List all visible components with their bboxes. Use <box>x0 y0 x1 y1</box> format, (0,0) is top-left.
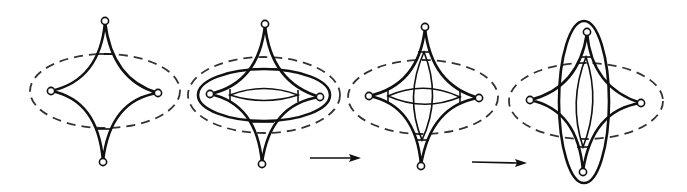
stage-4-figure <box>509 21 663 183</box>
top-node <box>583 28 590 35</box>
astroid-shape <box>369 28 479 165</box>
astroid-shape <box>530 33 641 171</box>
arrow-right-icon <box>472 159 527 167</box>
stage-3-figure <box>348 23 498 169</box>
vertical-lens <box>413 52 432 140</box>
transformation-diagram <box>0 0 687 192</box>
bottom-node <box>258 160 265 167</box>
astroid-shape <box>210 25 320 163</box>
stage-1-figure <box>30 17 180 165</box>
top-node <box>421 23 428 30</box>
left-node <box>526 96 533 103</box>
astroid-shape <box>51 22 158 161</box>
right-node <box>316 93 323 100</box>
left-node <box>47 87 54 94</box>
arrow-right-icon <box>310 154 361 162</box>
bottom-node <box>99 158 106 165</box>
right-node <box>154 89 161 96</box>
horizontal-lens <box>230 89 298 101</box>
right-node <box>637 99 644 106</box>
left-node <box>365 92 372 99</box>
top-node <box>261 20 268 27</box>
stage-2-figure <box>188 20 340 167</box>
left-node <box>206 90 213 97</box>
bottom-node <box>417 162 424 169</box>
bottom-node <box>579 168 586 175</box>
vertical-lens <box>576 57 593 147</box>
top-node <box>101 17 108 24</box>
right-node <box>475 94 482 101</box>
horizontal-lens <box>388 88 460 104</box>
